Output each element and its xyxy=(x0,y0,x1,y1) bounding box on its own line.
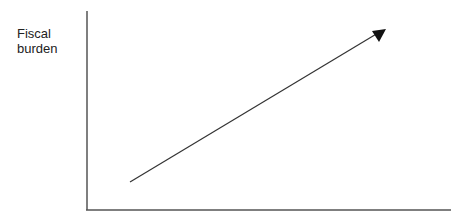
trend-line xyxy=(130,33,378,182)
chart-plot xyxy=(0,0,467,221)
